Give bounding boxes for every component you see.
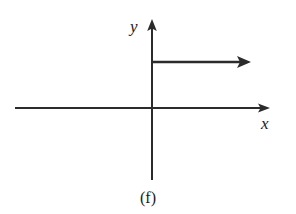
x-axis-label: x xyxy=(261,115,269,132)
figure-container: y x (f) xyxy=(0,0,296,214)
panel-caption: (f) xyxy=(0,190,296,206)
coordinate-plot xyxy=(0,0,296,214)
y-axis-label: y xyxy=(130,18,138,35)
